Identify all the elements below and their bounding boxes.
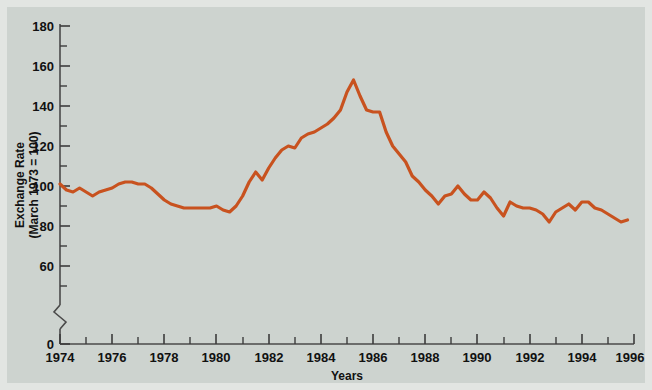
x-tick-label-1988: 1988 (411, 350, 440, 365)
y-axis-title-line2: (March 1973 = 100) (27, 131, 41, 238)
y-tick-label-60: 60 (40, 259, 54, 274)
y-tick-label-80: 80 (40, 219, 54, 234)
x-tick-label-1986: 1986 (359, 350, 388, 365)
chart-figure: 180 160 140 120 100 80 60 0 (0, 0, 652, 390)
y-axis-minor-ticks (60, 46, 67, 286)
exchange-rate-line-chart: 180 160 140 120 100 80 60 0 (0, 0, 652, 390)
x-tick-label-1996: 1996 (616, 350, 645, 365)
x-tick-label-1992: 1992 (516, 350, 545, 365)
x-axis-title: Years (331, 369, 363, 383)
x-tick-label-1974: 1974 (46, 350, 76, 365)
y-axis-break-zigzag (54, 305, 66, 329)
x-tick-label-1978: 1978 (150, 350, 179, 365)
x-tick-label-1976: 1976 (98, 350, 127, 365)
x-tick-label-1982: 1982 (255, 350, 284, 365)
y-axis-title-line1: Exchange Rate (13, 142, 27, 228)
y-tick-label-140: 140 (32, 99, 54, 114)
data-series-exchange-rate (60, 80, 627, 222)
y-tick-label-160: 160 (32, 59, 54, 74)
x-tick-label-1984: 1984 (307, 350, 337, 365)
x-tick-label-1994: 1994 (568, 350, 598, 365)
x-tick-label-1990: 1990 (463, 350, 492, 365)
x-tick-label-1980: 1980 (202, 350, 231, 365)
y-tick-label-180: 180 (32, 19, 54, 34)
